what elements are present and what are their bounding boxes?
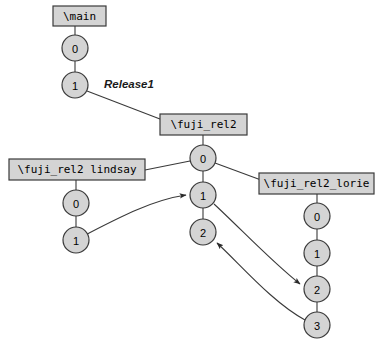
branch-box-fuji-rel2-lorie-label: \fuji_rel2_lorie	[264, 177, 370, 190]
revision-node-lorie-0-label: 0	[314, 211, 320, 223]
connector-fuji-0-to-lindsay-box	[145, 161, 190, 170]
revision-node-lorie-2-label: 2	[314, 284, 320, 296]
branch-box-main-label: \main	[63, 10, 96, 23]
version-control-diagram: \main \fuji_rel2 \fuji_rel2 lindsay \fuj…	[0, 0, 380, 342]
merge-arrow-fuji-1-to-lorie-2	[214, 204, 300, 284]
revision-node-main-1[interactable]: 1	[62, 72, 88, 98]
revision-node-fuji-rel2-1[interactable]: 1	[190, 182, 216, 208]
branch-box-fuji-rel2-lindsay-label: \fuji_rel2 lindsay	[17, 163, 137, 176]
revision-node-lorie-3[interactable]: 3	[304, 312, 330, 338]
tag-label-release1: Release1	[104, 78, 154, 90]
revision-node-lorie-1-label: 1	[314, 248, 320, 260]
revision-node-lorie-1[interactable]: 1	[304, 240, 330, 266]
revision-node-fuji-rel2-2-label: 2	[200, 227, 206, 239]
revision-node-fuji-rel2-1-label: 1	[200, 190, 206, 202]
connector-fuji-0-to-lorie-box	[215, 163, 261, 180]
revision-node-fuji-rel2-0[interactable]: 0	[190, 145, 216, 171]
merge-arrow-lindsay-1-to-fuji-1	[87, 195, 186, 234]
branch-box-fuji-rel2-label: \fuji_rel2	[170, 118, 236, 131]
branch-box-main[interactable]: \main	[53, 6, 106, 26]
revision-node-lorie-3-label: 3	[314, 320, 320, 332]
diagram-canvas: \main \fuji_rel2 \fuji_rel2 lindsay \fuj…	[0, 0, 380, 342]
revision-node-fuji-rel2-0-label: 0	[200, 153, 206, 165]
branch-box-fuji-rel2[interactable]: \fuji_rel2	[160, 114, 247, 135]
merge-arrow-lorie-3-to-fuji-2	[217, 243, 305, 320]
revision-node-lindsay-1-label: 1	[73, 235, 79, 247]
revision-node-main-0[interactable]: 0	[62, 35, 88, 61]
revision-node-fuji-rel2-2[interactable]: 2	[190, 219, 216, 245]
branch-box-fuji-rel2-lorie[interactable]: \fuji_rel2_lorie	[259, 173, 374, 194]
revision-node-main-1-label: 1	[72, 80, 78, 92]
branch-box-fuji-rel2-lindsay[interactable]: \fuji_rel2 lindsay	[9, 159, 145, 180]
revision-node-lindsay-0-label: 0	[73, 198, 79, 210]
revision-node-lorie-2[interactable]: 2	[304, 276, 330, 302]
revision-node-main-0-label: 0	[72, 43, 78, 55]
revision-node-lindsay-0[interactable]: 0	[63, 190, 89, 216]
revision-node-lorie-0[interactable]: 0	[304, 203, 330, 229]
revision-node-lindsay-1[interactable]: 1	[63, 227, 89, 253]
